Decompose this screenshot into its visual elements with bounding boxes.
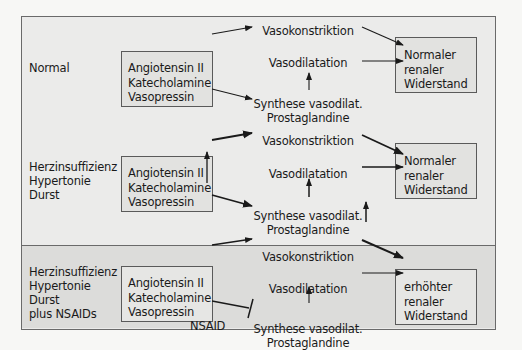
hormone-vasopressin: Vasopressin [128,305,212,320]
result-line-2: renaler [404,169,476,184]
vasoconstriction-label: Vasokonstriktion [262,24,354,38]
result-box: Normaler renaler Widerstand [395,37,477,93]
vasodilatation-label: Vasodilatation [269,282,348,296]
condition-line: Durst [29,188,117,202]
result-box: Normaler renaler Widerstand [395,143,477,199]
section-herzinsuffizienz: Herzinsuffizienz Hypertonie Durst Angiot… [22,131,495,245]
condition-line: Normal [29,61,69,75]
result-line-1: Normaler [404,48,476,63]
condition-line: Herzinsuffizienz [29,160,117,174]
synthesis-line-1: Synthese vasodilat. [254,322,363,336]
result-line-2: renaler [404,295,476,310]
result-line-3: Widerstand [404,309,476,324]
condition-label: Herzinsuffizienz Hypertonie Durst plus N… [29,265,117,321]
diagram-frame: Normal Angiotensin II Katecholamine Vaso… [21,16,496,330]
hormone-angiotensin: Angiotensin II [128,61,212,76]
hormone-angiotensin: Angiotensin II [128,166,212,181]
condition-line: Herzinsuffizienz [29,265,117,279]
condition-line: plus NSAIDs [29,307,117,321]
result-line-1: Normaler [404,154,476,169]
synthesis-line-2: Prostaglandine [254,223,363,237]
hormone-angiotensin: Angiotensin II [128,276,212,291]
nsaid-inhibitor-label: NSAID [190,319,225,333]
hormone-vasopressin: Vasopressin [128,195,212,210]
vasoconstriction-label: Vasokonstriktion [262,134,354,148]
vasodilatation-label: Vasodilatation [269,56,348,70]
condition-line: Hypertonie [29,279,117,293]
synthesis-line-2: Prostaglandine [254,336,363,350]
result-box: erhöhter renaler Widerstand [395,269,477,325]
hormone-katecholamine: Katecholamine [128,76,212,91]
synthesis-line-1: Synthese vasodilat. [254,209,363,223]
synthesis-line-2: Prostaglandine [254,111,363,125]
hormone-katecholamine: Katecholamine [128,181,212,196]
synthesis-label: Synthese vasodilat. Prostaglandine [254,322,363,350]
section-normal: Normal Angiotensin II Katecholamine Vaso… [22,17,495,131]
result-line-3: Widerstand [404,183,476,198]
hormone-vasopressin: Vasopressin [128,90,212,105]
condition-label: Normal [29,61,69,75]
synthesis-line-1: Synthese vasodilat. [254,97,363,111]
result-line-1: erhöhter [404,280,476,295]
hormone-katecholamine: Katecholamine [128,291,212,306]
vasodilatation-label: Vasodilatation [269,167,348,181]
synthesis-label: Synthese vasodilat. Prostaglandine [254,209,363,237]
condition-line: Hypertonie [29,174,117,188]
hormone-box: Angiotensin II Katecholamine Vasopressin [121,51,213,107]
hormone-box: Angiotensin II Katecholamine Vasopressin [121,266,213,322]
condition-line: Durst [29,293,117,307]
hormone-box: Angiotensin II Katecholamine Vasopressin [121,156,213,212]
vasoconstriction-label: Vasokonstriktion [262,250,354,264]
condition-label: Herzinsuffizienz Hypertonie Durst [29,160,117,202]
section-nsaids: Herzinsuffizienz Hypertonie Durst plus N… [22,245,495,328]
synthesis-label: Synthese vasodilat. Prostaglandine [254,97,363,125]
result-line-3: Widerstand [404,77,476,92]
result-line-2: renaler [404,63,476,78]
